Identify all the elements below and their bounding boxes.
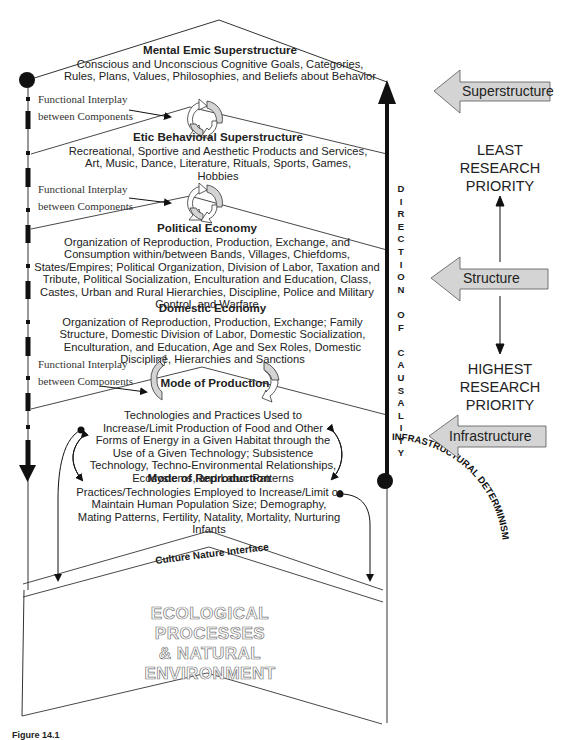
mode-of-production-title-block: Mode of Production xyxy=(160,377,270,391)
mode-of-reproduction-body: Practices/Technologies Employed to Incre… xyxy=(74,486,344,536)
causality-letter: A xyxy=(395,359,407,372)
mode-of-reproduction-title: Mode of Reproduction xyxy=(74,472,344,485)
political-economy-body: Organization of Reproduction, Production… xyxy=(32,236,382,311)
ecological-line2: & NATURAL ENVIRONMENT xyxy=(100,644,320,684)
interplay-line2: between Components xyxy=(38,373,133,390)
least-line2: RESEARCH xyxy=(450,159,550,177)
etic-behavioral-body: Recreational, Sportive and Aesthetic Pro… xyxy=(68,145,368,183)
figure-caption: Figure 14.1 xyxy=(12,730,60,740)
interplay-label-3: Functional Interplay between Components xyxy=(38,356,133,390)
causality-letter: L xyxy=(395,410,407,423)
mode-of-production-title: Mode of Production xyxy=(160,377,270,390)
causality-letter: I xyxy=(395,422,407,435)
left-feedback-line xyxy=(19,72,36,590)
causality-letter: O xyxy=(395,309,407,322)
highest-line2: RESEARCH xyxy=(450,378,550,396)
highest-line3: PRIORITY xyxy=(450,396,550,414)
etic-behavioral-superstructure-block: Etic Behavioral Superstructure Recreatio… xyxy=(68,131,368,182)
mental-emic-superstructure-block: Mental Emic Superstructure Conscious and… xyxy=(60,44,380,83)
causality-letter: C xyxy=(395,347,407,360)
causality-letter xyxy=(395,334,407,347)
highest-research-priority-label: HIGHEST RESEARCH PRIORITY xyxy=(450,360,550,414)
ecological-processes-label: ECOLOGICAL PROCESSES & NATURAL ENVIRONME… xyxy=(100,604,320,684)
interplay-label-1: Functional Interplay between Components xyxy=(38,91,133,125)
causality-letter: S xyxy=(395,385,407,398)
causality-letter: T xyxy=(395,246,407,259)
superstructure-arrow-label: Superstructure xyxy=(462,83,554,99)
causality-letter: A xyxy=(395,397,407,410)
political-economy-title: Political Economy xyxy=(32,222,382,235)
etic-behavioral-title: Etic Behavioral Superstructure xyxy=(68,131,368,144)
causality-letter: N xyxy=(395,284,407,297)
causality-letter: E xyxy=(395,221,407,234)
ecological-line1: ECOLOGICAL PROCESSES xyxy=(100,604,320,644)
least-line1: LEAST xyxy=(450,141,550,159)
interplay-line1: Functional Interplay xyxy=(38,91,133,108)
interplay-line1: Functional Interplay xyxy=(38,181,133,198)
causality-letter: F xyxy=(395,322,407,335)
causality-letter: C xyxy=(395,233,407,246)
causality-letter: I xyxy=(395,259,407,272)
direction-of-causality-label: DIRECTION OF CAUSALITY xyxy=(395,183,407,460)
least-research-priority-label: LEAST RESEARCH PRIORITY xyxy=(450,141,550,195)
interplay-line2: between Components xyxy=(38,198,133,215)
causality-letter: D xyxy=(395,183,407,196)
political-economy-block: Political Economy Organization of Reprod… xyxy=(32,222,382,311)
causality-letter: U xyxy=(395,372,407,385)
causality-letter: I xyxy=(395,196,407,209)
causality-letter: O xyxy=(395,271,407,284)
production-dot xyxy=(78,427,85,434)
least-line3: PRIORITY xyxy=(450,177,550,195)
mental-emic-title: Mental Emic Superstructure xyxy=(60,44,380,57)
highest-line1: HIGHEST xyxy=(450,360,550,378)
cycle-icon-2 xyxy=(188,183,223,223)
mental-emic-body: Conscious and Unconscious Cognitive Goal… xyxy=(60,58,380,83)
causality-letter xyxy=(395,296,407,309)
interplay-line2: between Components xyxy=(38,108,133,125)
causality-letter: R xyxy=(395,208,407,221)
infrastructure-arrow-label: Infrastructure xyxy=(449,428,531,444)
interplay-label-2: Functional Interplay between Components xyxy=(38,181,133,215)
domestic-economy-title: Domestic Economy xyxy=(40,302,385,315)
causality-letter: T xyxy=(395,435,407,448)
mode-of-reproduction-block: Mode of Reproduction Practices/Technolog… xyxy=(74,472,344,536)
structure-arrow-label: Structure xyxy=(463,270,520,286)
interplay-line1: Functional Interplay xyxy=(38,356,133,373)
causality-letter: Y xyxy=(395,447,407,460)
